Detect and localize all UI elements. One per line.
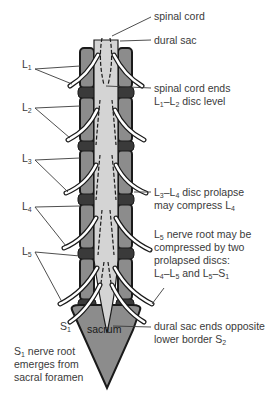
label-sacrum: sacrum — [87, 323, 121, 336]
label-dural-sac: dural sac — [154, 34, 197, 47]
label-l1: L1 — [22, 58, 32, 71]
label-l2: L2 — [22, 101, 32, 114]
s1-note: S1 nerve root emerges from sacral forame… — [14, 345, 83, 384]
label-l5: L5 — [22, 245, 32, 258]
label-l5-root: L5 nerve root may be compressed by two p… — [154, 228, 251, 280]
label-dural-sac-ends: dural sac ends opposite lower border S2 — [154, 320, 265, 346]
label-cord-ends: spinal cord ends L1–L2 disc level — [154, 82, 230, 108]
label-l4: L4 — [22, 200, 32, 213]
label-spinal-cord: spinal cord — [154, 10, 205, 23]
label-l3-l4-prolapse: L3–L4 disc prolapse may compress L4 — [154, 186, 244, 212]
label-s1: S1 — [60, 320, 71, 333]
label-l3: L3 — [22, 152, 32, 165]
